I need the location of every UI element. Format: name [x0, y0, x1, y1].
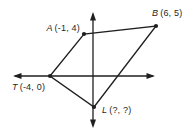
- point-A-coords: (-1, 4): [55, 23, 80, 33]
- point-T-coords: (-4, 0): [20, 82, 45, 92]
- quadrilateral-TABL: [50, 26, 156, 107]
- axis-arrowheads: [13, 12, 155, 128]
- point-B-name: B: [152, 8, 158, 18]
- coordinate-plane-svg: A(-1, 4) B(6, 5) T(-4, 0) L(?, ?): [0, 0, 195, 133]
- x-axis-right-arrowhead: [147, 73, 156, 79]
- label-point-T: T(-4, 0): [12, 82, 45, 92]
- vertex-dot-L: [92, 105, 96, 109]
- point-A-name: A: [45, 23, 52, 33]
- geometry-figure: A(-1, 4) B(6, 5) T(-4, 0) L(?, ?): [0, 0, 195, 133]
- x-axis-left-arrowhead: [13, 73, 22, 79]
- label-point-B: B(6, 5): [152, 8, 182, 18]
- vertex-dot-T: [48, 74, 52, 78]
- axes: [15, 14, 153, 126]
- vertex-dots: [48, 24, 158, 109]
- label-point-A: A(-1, 4): [45, 23, 80, 33]
- vertex-dot-A: [82, 32, 86, 36]
- vertex-dot-B: [154, 24, 158, 28]
- point-T-name: T: [12, 82, 19, 92]
- point-L-name: L: [102, 105, 107, 115]
- point-labels: A(-1, 4) B(6, 5) T(-4, 0) L(?, ?): [12, 8, 182, 115]
- y-axis-bottom-arrowhead: [90, 120, 96, 129]
- y-axis-top-arrowhead: [90, 12, 96, 21]
- point-L-coords: (?, ?): [109, 105, 131, 115]
- point-B-coords: (6, 5): [160, 8, 182, 18]
- label-point-L: L(?, ?): [102, 105, 131, 115]
